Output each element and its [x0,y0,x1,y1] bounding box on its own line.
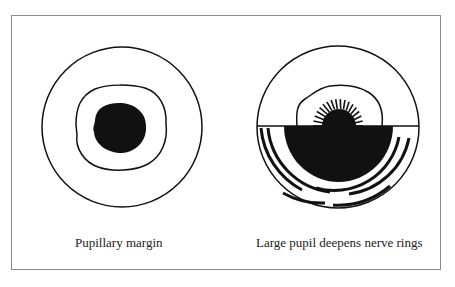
caption-pupillary-margin: Pupillary margin [75,235,163,251]
caption-large-pupil: Large pupil deepens nerve rings [256,235,423,251]
right-iris-diagram [257,46,419,208]
sunburst-pupil-core [322,109,356,126]
left-pupil [93,103,146,153]
left-iris-diagram [42,47,202,207]
